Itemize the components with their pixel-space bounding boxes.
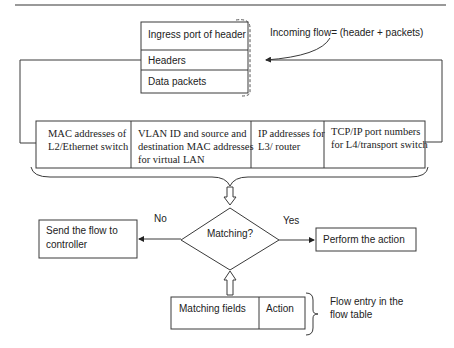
field-l3-line1: IP addresses for bbox=[258, 128, 325, 139]
incoming-arrow-icon bbox=[266, 38, 330, 60]
field-l2-line2: L2/Ethernet switch bbox=[48, 141, 129, 152]
field-vlan-line3: for virtual LAN bbox=[138, 154, 205, 165]
incoming-flow-label: Incoming flow= (header + packets) bbox=[270, 27, 423, 38]
perform-action-label: Perform the action bbox=[323, 234, 405, 245]
hollow-down-arrow-icon bbox=[224, 187, 236, 205]
decision-diamond: Matching? bbox=[181, 208, 279, 270]
perform-action-box: Perform the action bbox=[316, 228, 416, 251]
field-l3-line2: L3/ router bbox=[258, 141, 301, 152]
flow-diagram: Ingress port of header Headers Data pack… bbox=[0, 0, 454, 348]
field-l4-line1: TCP/IP port numbers bbox=[331, 126, 420, 137]
flow-entry-action: Action bbox=[266, 303, 294, 314]
send-line1: Send the flow to bbox=[46, 225, 118, 236]
brace-icon bbox=[31, 167, 428, 186]
flow-entry-caption-line1: Flow entry in the bbox=[330, 296, 404, 307]
packet-row-headers: Headers bbox=[148, 55, 186, 66]
packet-structure: Ingress port of header Headers Data pack… bbox=[141, 20, 250, 96]
field-l4-line2: for L4/transport switch bbox=[331, 139, 429, 150]
packet-row-ingress: Ingress port of header bbox=[148, 29, 247, 40]
send-to-controller-box: Send the flow to controller bbox=[39, 220, 137, 258]
field-vlan-line2: destination MAC addresses bbox=[138, 141, 254, 152]
field-l2-line1: MAC addresses of bbox=[48, 128, 127, 139]
yes-label: Yes bbox=[283, 215, 299, 226]
send-line2: controller bbox=[46, 239, 88, 250]
field-vlan-line1: VLAN ID and source and bbox=[138, 128, 247, 139]
decision-label: Matching? bbox=[207, 228, 254, 239]
small-brace-icon bbox=[306, 293, 318, 335]
no-label: No bbox=[154, 213, 167, 224]
flow-entry-caption-line2: flow table bbox=[330, 309, 373, 320]
packet-row-data: Data packets bbox=[148, 76, 206, 87]
flow-entry-table: Matching fields Action bbox=[171, 297, 305, 329]
hollow-up-arrow-icon bbox=[224, 271, 236, 295]
flow-entry-matching-fields: Matching fields bbox=[179, 303, 246, 314]
match-fields-row: MAC addresses of L2/Ethernet switch VLAN… bbox=[36, 121, 429, 168]
